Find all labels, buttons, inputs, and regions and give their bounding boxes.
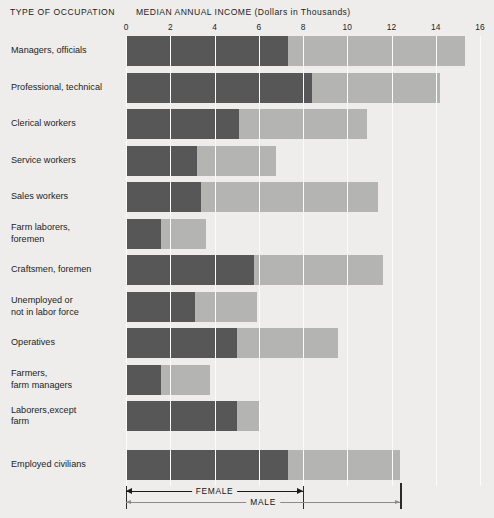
gridline-14: [436, 36, 437, 486]
arrowhead-right-icon: [297, 488, 303, 494]
category-label: Professional, technical: [0, 82, 116, 93]
gridline-6: [259, 36, 260, 486]
bar-segment-female: [126, 328, 237, 358]
x-axis-tick-label: 6: [256, 22, 261, 32]
x-axis-tick-label: 2: [168, 22, 173, 32]
arrowhead-left-icon: [126, 488, 132, 494]
gridline-16: [480, 36, 481, 486]
legend-label-female: FEMALE: [192, 486, 238, 496]
category-label-line: Operatives: [11, 337, 116, 348]
category-label-line: Clerical workers: [11, 118, 116, 129]
gridline-12: [392, 36, 393, 486]
bar-segment-female: [126, 109, 239, 139]
category-label: Sales workers: [0, 191, 116, 202]
category-label-line: Sales workers: [11, 191, 116, 202]
gridline-0: [126, 36, 127, 486]
category-label-line: Professional, technical: [11, 82, 116, 93]
category-label: Farm laborers,foremen: [0, 222, 116, 245]
category-label-line: Farm laborers,: [11, 222, 116, 233]
category-label: Managers, officials: [0, 45, 116, 56]
category-label: Farmers,farm managers: [0, 368, 116, 391]
x-axis-tick-label: 0: [124, 22, 129, 32]
income-chart-heading: MEDIAN ANNUAL INCOME (Dollars in Thousan…: [136, 7, 351, 17]
chart-legend: FEMALEMALE: [126, 483, 480, 513]
bar-segment-female: [126, 292, 195, 322]
bar-segment-female: [126, 36, 288, 66]
legend-tick-mark: [303, 483, 304, 509]
plot-area: 0246810121416: [126, 36, 480, 486]
category-label: Service workers: [0, 155, 116, 166]
x-axis-tick-label: 8: [301, 22, 306, 32]
category-label-line: Employed civilians: [11, 459, 116, 470]
bar-segment-female: [126, 219, 161, 249]
chart-container: TYPE OF OCCUPATION MEDIAN ANNUAL INCOME …: [0, 0, 494, 518]
category-label-line: Service workers: [11, 155, 116, 166]
legend-tick-mark: [126, 483, 127, 509]
bar-segment-female: [126, 73, 312, 103]
category-label-line: Laborers,except: [11, 405, 116, 416]
x-axis-tick-label: 16: [475, 22, 484, 32]
category-label: Laborers,exceptfarm: [0, 405, 116, 428]
arrowhead-left-icon: [126, 500, 131, 504]
category-label: Unemployed ornot in labor force: [0, 295, 116, 318]
x-axis-tick-label: 14: [431, 22, 440, 32]
category-label: Employed civilians: [0, 459, 116, 470]
bar-segment-female: [126, 182, 201, 212]
category-label-line: farm managers: [11, 380, 116, 391]
gridline-8: [303, 36, 304, 486]
arrowhead-right-icon: [395, 500, 400, 504]
gridline-4: [215, 36, 216, 486]
category-label-line: not in labor force: [11, 307, 116, 318]
bar-segment-female: [126, 365, 161, 395]
category-label: Operatives: [0, 337, 116, 348]
category-label-line: Unemployed or: [11, 295, 116, 306]
gridline-10: [347, 36, 348, 486]
bar-segment-female: [126, 255, 254, 285]
bar-segment-female: [126, 401, 237, 431]
x-axis-tick-label: 12: [387, 22, 396, 32]
bar-segment-female: [126, 146, 197, 176]
x-axis-tick-label: 10: [343, 22, 352, 32]
category-label-line: Craftsmen, foremen: [11, 264, 116, 275]
occupation-column-heading: TYPE OF OCCUPATION: [10, 7, 115, 17]
category-label-line: Managers, officials: [11, 45, 116, 56]
category-label-line: foremen: [11, 234, 116, 245]
category-label: Craftsmen, foremen: [0, 264, 116, 275]
legend-label-male: MALE: [246, 497, 280, 507]
category-label-line: farm: [11, 416, 116, 427]
legend-tick-mark: [400, 483, 401, 509]
gridline-2: [170, 36, 171, 486]
category-label-line: Farmers,: [11, 368, 116, 379]
bar-segment-female: [126, 450, 288, 480]
category-label: Clerical workers: [0, 118, 116, 129]
x-axis-tick-label: 4: [212, 22, 217, 32]
